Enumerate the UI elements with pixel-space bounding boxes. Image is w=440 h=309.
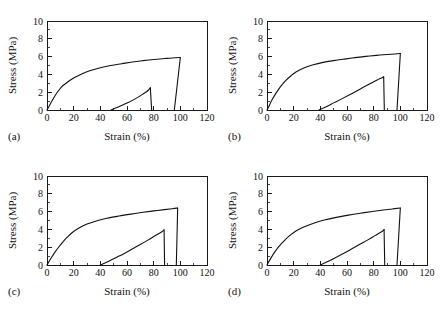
x-tick-label: 40 xyxy=(315,267,325,278)
curve-first-loading-curve xyxy=(47,208,178,265)
y-tick-label: 4 xyxy=(38,224,43,235)
x-tick-label: 60 xyxy=(122,267,132,278)
y-axis-label: Stress (MPa) xyxy=(226,192,239,249)
y-tick-label: 2 xyxy=(258,242,263,253)
panel-b: 0204060801001200246810Strain (%)Stress (… xyxy=(220,0,440,154)
y-tick-label: 10 xyxy=(253,16,263,27)
x-axis-label: Strain (%) xyxy=(104,130,150,143)
panel-d: 0204060801001200246810Strain (%)Stress (… xyxy=(220,155,440,309)
x-axis-label: Strain (%) xyxy=(324,285,370,298)
panel-c: 0204060801001200246810Strain (%)Stress (… xyxy=(0,155,220,309)
panel-c-plot: 0204060801001200246810Strain (%)Stress (… xyxy=(0,155,220,309)
y-tick-label: 6 xyxy=(38,206,43,217)
panel-label: (c) xyxy=(8,285,21,298)
x-tick-label: 60 xyxy=(342,112,352,123)
curve-first-unloading-drop xyxy=(397,53,400,110)
x-tick-label: 100 xyxy=(173,112,188,123)
curve-first-loading-curve xyxy=(267,53,400,110)
panel-a: 0204060801001200246810Strain (%)Stress (… xyxy=(0,0,220,154)
x-tick-label: 120 xyxy=(420,112,435,123)
x-tick-label: 0 xyxy=(45,112,50,123)
y-tick-label: 4 xyxy=(258,69,263,80)
y-tick-label: 2 xyxy=(38,242,43,253)
x-tick-label: 20 xyxy=(289,112,299,123)
y-axis-label: Stress (MPa) xyxy=(226,37,239,94)
curve-second-loading-curve xyxy=(319,77,384,110)
x-tick-label: 80 xyxy=(369,112,379,123)
y-tick-label: 4 xyxy=(258,224,263,235)
x-tick-label: 0 xyxy=(265,267,270,278)
x-tick-label: 100 xyxy=(393,267,408,278)
curve-second-unloading-drop xyxy=(384,77,385,110)
y-tick-label: 2 xyxy=(38,87,43,98)
curve-second-loading-curve xyxy=(320,230,384,265)
y-tick-label: 8 xyxy=(38,188,43,199)
y-tick-label: 0 xyxy=(38,260,43,271)
curve-second-loading-curve xyxy=(100,230,164,265)
y-axis-label: Stress (MPa) xyxy=(6,37,19,94)
curve-first-unloading-drop xyxy=(397,208,400,265)
x-tick-label: 20 xyxy=(69,267,79,278)
panel-b-plot: 0204060801001200246810Strain (%)Stress (… xyxy=(220,0,440,154)
panel-label: (b) xyxy=(228,130,241,143)
y-tick-label: 6 xyxy=(258,51,263,62)
x-tick-label: 20 xyxy=(289,267,299,278)
stress-strain-figure: 0204060801001200246810Strain (%)Stress (… xyxy=(0,0,440,309)
x-tick-label: 40 xyxy=(95,267,105,278)
x-tick-label: 120 xyxy=(200,112,215,123)
x-tick-label: 60 xyxy=(342,267,352,278)
y-tick-label: 0 xyxy=(258,260,263,271)
y-tick-label: 0 xyxy=(258,105,263,116)
y-tick-label: 4 xyxy=(38,69,43,80)
curve-second-loading-curve xyxy=(111,88,150,110)
x-tick-label: 100 xyxy=(393,112,408,123)
plot-frame xyxy=(47,21,207,110)
curve-second-unloading-drop xyxy=(384,230,385,265)
panel-label: (d) xyxy=(228,285,241,298)
panel-d-plot: 0204060801001200246810Strain (%)Stress (… xyxy=(220,155,440,309)
x-tick-label: 0 xyxy=(45,267,50,278)
x-tick-label: 80 xyxy=(149,112,159,123)
x-axis-label: Strain (%) xyxy=(324,130,370,143)
y-tick-label: 10 xyxy=(33,171,43,182)
x-tick-label: 120 xyxy=(200,267,215,278)
x-tick-label: 40 xyxy=(95,112,105,123)
y-tick-label: 8 xyxy=(258,33,263,44)
y-tick-label: 0 xyxy=(38,105,43,116)
y-tick-label: 2 xyxy=(258,87,263,98)
panel-label: (a) xyxy=(8,130,21,143)
x-tick-label: 40 xyxy=(315,112,325,123)
curve-first-loading-curve xyxy=(267,208,400,265)
y-tick-label: 8 xyxy=(38,33,43,44)
curve-first-unloading-drop xyxy=(176,208,177,265)
x-tick-label: 80 xyxy=(369,267,379,278)
y-tick-label: 6 xyxy=(38,51,43,62)
x-tick-label: 80 xyxy=(149,267,159,278)
y-tick-label: 10 xyxy=(33,16,43,27)
x-tick-label: 20 xyxy=(69,112,79,123)
x-axis-label: Strain (%) xyxy=(104,285,150,298)
curve-second-unloading-drop xyxy=(150,88,151,110)
y-tick-label: 10 xyxy=(253,171,263,182)
x-tick-label: 100 xyxy=(173,267,188,278)
y-tick-label: 6 xyxy=(258,206,263,217)
panel-a-plot: 0204060801001200246810Strain (%)Stress (… xyxy=(0,0,220,154)
x-tick-label: 120 xyxy=(420,267,435,278)
curve-second-unloading-drop xyxy=(164,230,165,265)
y-tick-label: 8 xyxy=(258,188,263,199)
y-axis-label: Stress (MPa) xyxy=(6,192,19,249)
curve-first-unloading-drop xyxy=(174,57,180,110)
x-tick-label: 0 xyxy=(265,112,270,123)
curve-first-loading-curve xyxy=(47,57,180,110)
x-tick-label: 60 xyxy=(122,112,132,123)
